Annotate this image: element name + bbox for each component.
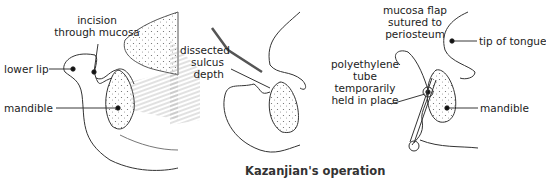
label-flap-line1: mucosa flap <box>370 4 460 16</box>
label-dissected-line3: depth <box>180 68 224 80</box>
label-incision-line1: incision <box>52 14 142 26</box>
label-tube-line3: temporarily <box>330 82 400 94</box>
label-tube-line1: polyethylene <box>330 58 400 70</box>
label-tube-line2: tube <box>330 70 400 82</box>
label-polyethylene-tube: polyethylene tube temporarily held in pl… <box>330 58 400 106</box>
label-flap-line3: periosteum <box>370 28 460 40</box>
label-flap-line2: sutured to <box>370 16 460 28</box>
label-dissected-sulcus-depth: dissected sulcus depth <box>180 44 224 80</box>
label-mucosa-flap: mucosa flap sutured to periosteum <box>370 4 460 40</box>
label-dissected-line1: dissected <box>180 44 224 56</box>
label-mandible-panel3: mandible <box>480 102 529 114</box>
label-incision-line2: through mucosa <box>52 26 142 38</box>
label-dissected-line2: sulcus <box>180 56 224 68</box>
panel-2-drawing <box>170 12 306 152</box>
figure-caption: Kazanjian's operation <box>245 164 385 178</box>
label-lower-lip: lower lip <box>4 63 49 75</box>
label-tube-line4: held in place <box>330 94 400 106</box>
label-tip-of-tongue: tip of tongue <box>479 35 546 47</box>
label-incision-through-mucosa: incision through mucosa <box>52 14 142 38</box>
label-mandible-panel1: mandible <box>4 102 53 114</box>
